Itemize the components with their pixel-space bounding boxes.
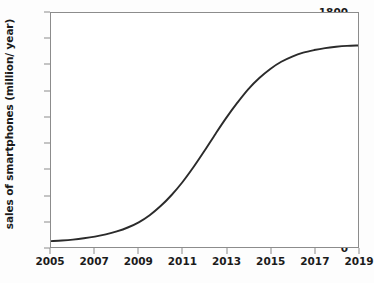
x-tick-label: 2009 [124,255,153,267]
x-tick-label: 2015 [256,255,285,267]
x-tick-mark [94,248,95,254]
smartphone-sales-chart: sales of smartphones (million/ year) 020… [0,0,374,283]
x-tick-mark [314,248,315,254]
x-tick-mark [50,248,51,254]
x-tick-mark [226,248,227,254]
x-tick-label: 2013 [212,255,241,267]
x-tick-mark [138,248,139,254]
x-tick-label: 2019 [344,255,373,267]
y-axis-title: sales of smartphones (million/ year) [0,0,18,248]
data-line-svg [51,13,358,247]
x-tick-label: 2011 [168,255,197,267]
x-tick-label: 2005 [35,255,64,267]
x-tick-label: 2007 [80,255,109,267]
x-tick-label: 2017 [300,255,329,267]
x-tick-mark [359,248,360,254]
plot-area [50,12,359,248]
series-line-smartphone-sales [51,46,358,242]
x-tick-mark [270,248,271,254]
x-tick-mark [182,248,183,254]
